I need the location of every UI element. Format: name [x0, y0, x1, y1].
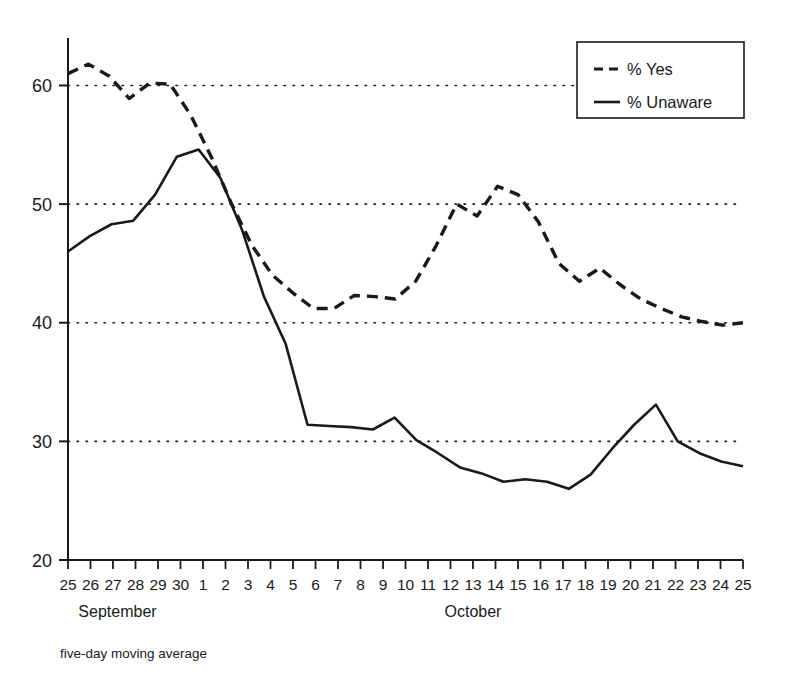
x-tick-label: 1 — [199, 576, 208, 593]
x-tick-label: 21 — [644, 576, 661, 593]
x-tick-label: 25 — [59, 576, 76, 593]
x-tick-label: 17 — [554, 576, 571, 593]
x-tick-label: 19 — [599, 576, 616, 593]
x-tick-group — [68, 560, 743, 569]
y-tick-label: 20 — [32, 551, 52, 571]
x-tick-label: 15 — [509, 576, 526, 593]
x-tick-label: 5 — [289, 576, 298, 593]
x-tick-label: 6 — [311, 576, 320, 593]
series-line-unaware — [68, 150, 743, 489]
x-tick-label: 16 — [532, 576, 549, 593]
gridline-group — [68, 85, 743, 441]
x-tick-label: 9 — [379, 576, 388, 593]
x-tick-label: 13 — [464, 576, 481, 593]
month-label-group: SeptemberOctober — [78, 603, 502, 620]
y-tick-label: 30 — [32, 432, 52, 452]
x-tick-label-group: 2526272829301234567891011121314151617181… — [59, 576, 751, 593]
y-tick-label: 40 — [32, 313, 52, 333]
chart-figure: 2030405060 25262728293012345678910111213… — [0, 0, 787, 682]
x-tick-label: 28 — [127, 576, 144, 593]
x-tick-label: 23 — [689, 576, 706, 593]
x-tick-label: 14 — [487, 576, 505, 593]
x-tick-label: 22 — [667, 576, 684, 593]
x-tick-label: 30 — [172, 576, 190, 593]
x-tick-label: 20 — [622, 576, 640, 593]
chart-footnote: five-day moving average — [60, 646, 207, 661]
x-group-label: October — [445, 603, 503, 620]
x-tick-label: 12 — [442, 576, 459, 593]
x-tick-label: 24 — [712, 576, 730, 593]
x-tick-label: 18 — [577, 576, 594, 593]
x-tick-label: 10 — [397, 576, 415, 593]
x-tick-label: 7 — [334, 576, 343, 593]
x-tick-label: 3 — [244, 576, 253, 593]
legend-label: % Yes — [627, 60, 673, 78]
x-tick-label: 11 — [420, 576, 436, 593]
x-tick-label: 29 — [149, 576, 166, 593]
x-tick-label: 25 — [734, 576, 751, 593]
x-tick-label: 26 — [82, 576, 99, 593]
y-tick-group — [59, 85, 68, 560]
series-group — [68, 64, 743, 489]
legend-label: % Unaware — [627, 93, 712, 111]
x-tick-label: 2 — [221, 576, 230, 593]
x-group-label: September — [78, 603, 157, 620]
y-tick-label: 50 — [32, 195, 52, 215]
y-tick-label: 60 — [32, 76, 52, 96]
x-tick-label: 27 — [104, 576, 121, 593]
chart-canvas: 2030405060 25262728293012345678910111213… — [0, 0, 787, 682]
y-tick-label-group: 2030405060 — [32, 76, 52, 571]
x-tick-label: 4 — [266, 576, 275, 593]
chart-legend: % Yes% Unaware — [577, 42, 744, 118]
x-tick-label: 8 — [356, 576, 365, 593]
